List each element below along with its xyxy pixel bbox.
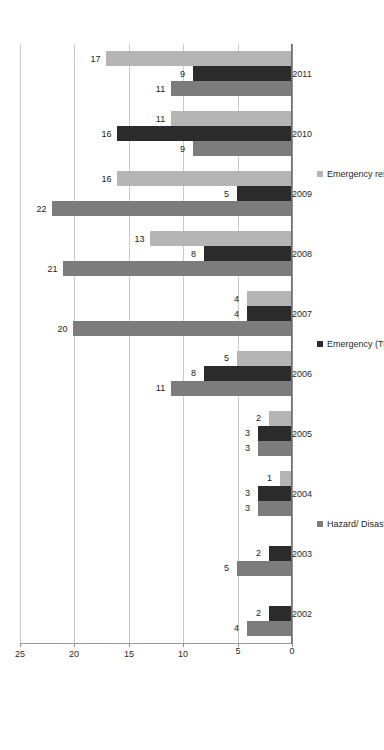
bar-value-label: 8 xyxy=(191,249,196,258)
y-tick-label: 0 xyxy=(289,647,294,657)
bar-value-label: 9 xyxy=(180,144,185,153)
bar-group-2010: 91611 xyxy=(20,104,291,164)
bar-value-label: 17 xyxy=(91,54,101,63)
bar[interactable]: 5 xyxy=(237,351,291,366)
bar-value-label: 3 xyxy=(245,504,250,513)
legend-label: Emergency response/ management (Yingji) xyxy=(327,169,384,179)
y-tick-label: 10 xyxy=(178,649,188,659)
bar-value-label: 4 xyxy=(234,309,239,318)
legend-swatch-icon xyxy=(317,521,323,527)
chart-area: 0510152025 42523313321185204421813225169… xyxy=(14,28,342,704)
bar-value-label: 16 xyxy=(101,129,111,138)
plot-area: 0510152025 42523313321185204421813225169… xyxy=(20,44,292,644)
y-tick-mark xyxy=(20,643,21,647)
bar[interactable]: 11 xyxy=(171,111,291,126)
bar-value-label: 4 xyxy=(234,294,239,303)
bar-value-label: 5 xyxy=(224,564,229,573)
bar-value-label: 5 xyxy=(224,354,229,363)
bar-value-label: 11 xyxy=(156,84,165,93)
bar-group-2007: 2044 xyxy=(20,284,291,344)
legend-label: Hazard/ Disaster (Zaihai) xyxy=(327,519,384,529)
legend-swatch-icon xyxy=(317,171,323,177)
rotated-chart-canvas: 0510152025 42523313321185204421813225169… xyxy=(0,0,384,750)
bar-group-2004: 331 xyxy=(20,463,291,523)
bar-value-label: 16 xyxy=(101,174,111,183)
bar-value-label: 3 xyxy=(245,489,250,498)
y-tick-label: 20 xyxy=(69,649,79,659)
bar[interactable]: 9 xyxy=(193,141,291,156)
bar-value-label: 13 xyxy=(134,234,144,243)
bar[interactable]: 2 xyxy=(269,606,291,621)
bar-group-2003: 52 xyxy=(20,523,291,583)
bar-value-label: 1 xyxy=(267,474,272,483)
bar[interactable]: 1 xyxy=(280,471,291,486)
bar-value-label: 22 xyxy=(36,204,46,213)
bar-group-2011: 11917 xyxy=(20,44,291,104)
y-tick-label: 25 xyxy=(15,649,25,659)
bar[interactable]: 17 xyxy=(106,51,291,66)
bar-value-label: 3 xyxy=(245,444,250,453)
bar[interactable]: 4 xyxy=(247,306,291,321)
legend-swatch-icon xyxy=(317,341,323,347)
bar-group-2008: 21813 xyxy=(20,224,291,284)
bar[interactable]: 2 xyxy=(269,546,291,561)
bar-value-label: 2 xyxy=(256,414,261,423)
chart-legend: Hazard/ Disaster (Zaihai)Emergency (Tufa… xyxy=(312,44,346,644)
bar[interactable]: 13 xyxy=(150,231,291,246)
bar[interactable]: 5 xyxy=(237,186,291,201)
bar[interactable]: 3 xyxy=(258,441,291,456)
bar[interactable]: 2 xyxy=(269,411,291,426)
bar[interactable]: 3 xyxy=(258,501,291,516)
bar-value-label: 9 xyxy=(180,69,185,78)
bar-value-label: 8 xyxy=(191,369,196,378)
bar[interactable]: 5 xyxy=(237,561,291,576)
y-tick-mark xyxy=(183,643,184,647)
bar[interactable]: 8 xyxy=(204,246,291,261)
bar[interactable]: 11 xyxy=(171,381,291,396)
bar-groups: 42523313321185204421813225169161111917 xyxy=(20,44,291,643)
bar[interactable]: 3 xyxy=(258,426,291,441)
bar-value-label: 21 xyxy=(47,264,57,273)
bar[interactable]: 4 xyxy=(247,621,291,636)
legend-item[interactable]: Emergency response/ management (Yingji) xyxy=(317,169,384,179)
legend-item[interactable]: Hazard/ Disaster (Zaihai) xyxy=(317,519,384,529)
legend-label: Emergency (Tufa shijian) xyxy=(327,339,384,349)
bar[interactable]: 16 xyxy=(117,126,291,141)
bar-group-2002: 42 xyxy=(20,583,291,643)
bar[interactable]: 4 xyxy=(247,291,291,306)
y-tick-mark xyxy=(74,643,75,647)
bar-group-2009: 22516 xyxy=(20,164,291,224)
bar-group-2006: 1185 xyxy=(20,343,291,403)
bar-value-label: 11 xyxy=(156,114,165,123)
bar[interactable]: 8 xyxy=(204,366,291,381)
bar-value-label: 5 xyxy=(224,189,229,198)
y-tick-label: 5 xyxy=(235,647,240,657)
y-tick-label: 15 xyxy=(124,649,134,659)
bar[interactable]: 3 xyxy=(258,486,291,501)
bar-value-label: 3 xyxy=(245,429,250,438)
bar-value-label: 11 xyxy=(156,384,165,393)
bar[interactable]: 21 xyxy=(63,261,291,276)
bar-value-label: 2 xyxy=(256,609,261,618)
bar[interactable]: 9 xyxy=(193,66,291,81)
legend-item[interactable]: Emergency (Tufa shijian) xyxy=(317,339,384,349)
bar-value-label: 4 xyxy=(234,624,239,633)
bar[interactable]: 22 xyxy=(52,201,291,216)
bar[interactable]: 20 xyxy=(73,321,291,336)
bar-group-2005: 332 xyxy=(20,403,291,463)
bar-value-label: 2 xyxy=(256,549,261,558)
y-tick-mark xyxy=(129,643,130,647)
bar-value-label: 20 xyxy=(58,324,68,333)
bar[interactable]: 16 xyxy=(117,171,291,186)
bar[interactable]: 11 xyxy=(171,81,291,96)
